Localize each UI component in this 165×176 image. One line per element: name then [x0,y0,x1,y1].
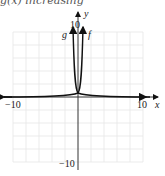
y-min-tick: −10 [59,158,75,169]
curve-f [4,27,83,97]
graph: y 10 g f −10 10 x −10 [0,0,165,176]
curve-g-label: g [62,29,67,40]
curve-g [73,27,150,97]
y-axis-label: y [83,8,89,19]
x-min-tick: −10 [5,99,21,110]
y-max-tick: 10 [70,19,80,30]
x-axis-label: x [154,99,160,110]
x-max-tick: 10 [137,99,147,110]
